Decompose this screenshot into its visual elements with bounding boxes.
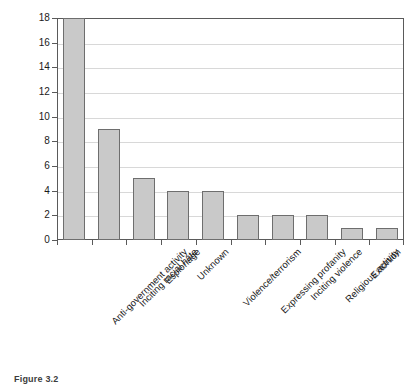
x-tick-mark [196, 240, 197, 245]
x-tick-label: Extortion [368, 246, 403, 281]
x-tick-mark [231, 240, 232, 245]
y-tick-label: 2 [4, 210, 50, 220]
y-tick-label: 18 [4, 13, 50, 23]
bar[interactable] [341, 228, 363, 240]
y-tick-label: 6 [4, 161, 50, 171]
x-tick-mark [126, 240, 127, 245]
x-tick-mark [161, 240, 162, 245]
figure-container: 024681012141618 Anti-government activity… [0, 0, 418, 388]
x-tick-mark [403, 240, 404, 245]
bar[interactable] [133, 178, 155, 240]
bar[interactable] [63, 18, 85, 240]
bar[interactable] [272, 215, 294, 240]
y-tick-label: 0 [4, 235, 50, 245]
bar[interactable] [376, 228, 398, 240]
x-tick-mark [335, 240, 336, 245]
x-tick-mark [265, 240, 266, 245]
x-tick-mark [57, 240, 58, 245]
bar[interactable] [167, 191, 189, 240]
y-tick-label: 16 [4, 38, 50, 48]
figure-caption: Figure 3.2 [14, 374, 59, 384]
y-tick-label: 4 [4, 186, 50, 196]
x-tick-mark [92, 240, 93, 245]
x-tick-mark [369, 240, 370, 245]
bar[interactable] [202, 191, 224, 240]
y-tick-label: 8 [4, 136, 50, 146]
y-tick-label: 12 [4, 87, 50, 97]
bar[interactable] [98, 129, 120, 240]
x-axis-labels: Anti-government activityInciting racial … [0, 246, 418, 376]
bar[interactable] [237, 215, 259, 240]
y-tick-label: 10 [4, 112, 50, 122]
bar[interactable] [306, 215, 328, 240]
bar-series [57, 18, 404, 240]
y-axis: 024681012141618 [0, 0, 50, 240]
x-tick-mark [300, 240, 301, 245]
y-tick-label: 14 [4, 62, 50, 72]
